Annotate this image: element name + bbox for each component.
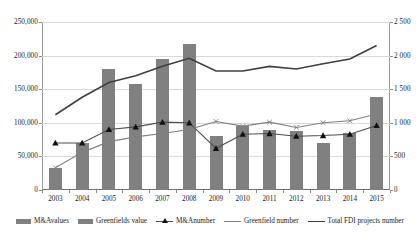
x-axis-tick bbox=[390, 190, 391, 193]
x-axis-tick bbox=[283, 190, 284, 193]
y-axis-left-tick-label: 0 bbox=[34, 186, 38, 194]
x-axis-tick-label: 2011 bbox=[262, 195, 276, 203]
legend-line-swatch-icon bbox=[308, 217, 325, 225]
legend-label: Greenfield number bbox=[244, 217, 298, 225]
legend-item[interactable]: M&Avalues bbox=[16, 217, 69, 225]
x-axis: 2003200420052006200720082009201020112012… bbox=[42, 190, 390, 210]
legend-item[interactable]: M&Anumber bbox=[156, 217, 215, 225]
y-axis-right-tick bbox=[390, 56, 393, 57]
y-axis-right-tick-label: 0 bbox=[394, 186, 398, 194]
legend-line-swatch-icon bbox=[156, 217, 173, 225]
x-axis-tick bbox=[310, 190, 311, 193]
y-axis-right-tick-label: 2 500 bbox=[394, 18, 411, 26]
y-axis-right-tick bbox=[390, 22, 393, 23]
legend-label: Greenfields value bbox=[96, 217, 147, 225]
line-series bbox=[55, 114, 376, 168]
y-axis-right: 05001 0001 5002 0002 500 bbox=[394, 22, 420, 190]
y-axis-left-tick-label: 200,000 bbox=[14, 52, 38, 60]
data-point-marker bbox=[53, 165, 58, 170]
legend-bar-swatch-icon bbox=[78, 219, 93, 224]
x-axis-tick bbox=[203, 190, 204, 193]
y-axis-right-tick-label: 1 500 bbox=[394, 85, 411, 93]
x-axis-tick bbox=[363, 190, 364, 193]
x-axis-tick bbox=[149, 190, 150, 193]
x-axis-tick bbox=[42, 190, 43, 193]
x-axis-tick-label: 2005 bbox=[102, 195, 116, 203]
x-axis-tick-label: 2009 bbox=[209, 195, 223, 203]
line-series bbox=[55, 46, 376, 115]
legend-item[interactable]: Greenfields value bbox=[78, 217, 147, 225]
x-axis-tick-label: 2015 bbox=[369, 195, 383, 203]
y-axis-right-tick-label: 1 000 bbox=[394, 119, 411, 127]
line-series bbox=[55, 122, 376, 148]
x-axis-tick-label: 2004 bbox=[75, 195, 89, 203]
x-axis-tick bbox=[176, 190, 177, 193]
legend-line-swatch-icon bbox=[224, 217, 241, 225]
x-axis-tick bbox=[96, 190, 97, 193]
y-axis-left-tick-label: 100,000 bbox=[14, 119, 38, 127]
legend-label: Total FDI projects number bbox=[328, 217, 404, 225]
x-axis-tick-label: 2008 bbox=[182, 195, 196, 203]
y-axis-left-tick-label: 50,000 bbox=[18, 152, 38, 160]
y-axis-left-tick-label: 150,000 bbox=[14, 85, 38, 93]
legend-bar-swatch-icon bbox=[16, 219, 31, 224]
x-axis-tick bbox=[229, 190, 230, 193]
plot-area bbox=[42, 22, 390, 190]
line-series-group bbox=[42, 22, 390, 190]
y-axis-left: 050,000100,000150,000200,000250,000 bbox=[0, 22, 38, 190]
x-axis-tick bbox=[122, 190, 123, 193]
legend-item[interactable]: Greenfield number bbox=[224, 217, 298, 225]
data-point-marker bbox=[373, 122, 379, 128]
x-axis-tick bbox=[336, 190, 337, 193]
x-axis-tick-label: 2013 bbox=[316, 195, 330, 203]
legend-label: M&Anumber bbox=[176, 217, 215, 225]
x-axis-tick-label: 2010 bbox=[236, 195, 250, 203]
x-axis-tick-label: 2007 bbox=[155, 195, 169, 203]
x-axis-tick bbox=[69, 190, 70, 193]
x-axis-tick-label: 2006 bbox=[129, 195, 143, 203]
y-axis-right-tick-label: 2 000 bbox=[394, 52, 411, 60]
x-axis-tick-label: 2014 bbox=[343, 195, 357, 203]
y-axis-left-tick-label: 250,000 bbox=[14, 18, 38, 26]
chart-container: 050,000100,000150,000200,000250,000 0500… bbox=[0, 0, 420, 235]
y-axis-right-tick bbox=[390, 156, 393, 157]
y-axis-right-tick bbox=[390, 123, 393, 124]
legend-triangle-marker-icon bbox=[162, 218, 168, 223]
x-axis-tick-label: 2003 bbox=[48, 195, 62, 203]
y-axis-right-tick bbox=[390, 89, 393, 90]
chart-legend: M&AvaluesGreenfields valueM&AnumberGreen… bbox=[0, 212, 420, 230]
y-axis-right-tick-label: 500 bbox=[394, 152, 405, 160]
legend-label: M&Avalues bbox=[34, 217, 69, 225]
legend-item[interactable]: Total FDI projects number bbox=[308, 217, 404, 225]
data-point-marker bbox=[80, 150, 85, 155]
x-axis-tick bbox=[256, 190, 257, 193]
x-axis-tick-label: 2012 bbox=[289, 195, 303, 203]
